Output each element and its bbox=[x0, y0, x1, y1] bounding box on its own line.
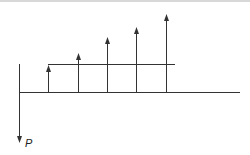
cash-flow-diagram bbox=[0, 0, 250, 155]
arrow-up-icon bbox=[76, 53, 81, 60]
present-value-label: P bbox=[25, 137, 32, 149]
arrow-up-icon bbox=[134, 27, 139, 34]
arrow-up-icon bbox=[164, 14, 169, 21]
arrow-up-icon bbox=[105, 37, 110, 44]
arrow-down-icon bbox=[17, 136, 22, 143]
arrow-up-icon bbox=[46, 65, 51, 72]
